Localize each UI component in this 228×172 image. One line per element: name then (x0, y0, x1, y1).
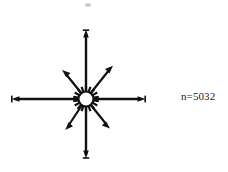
ray-south-tip-cap (83, 157, 89, 159)
scan-speck (85, 3, 91, 7)
ray-southwest-arrowhead (65, 122, 73, 130)
center-hub-disc (79, 92, 94, 107)
ray-west-tip-cap (11, 96, 13, 103)
ray-east-arrowhead (138, 96, 146, 102)
ray-north-tip-cap (83, 29, 89, 31)
rose-diagram (0, 0, 228, 172)
ray-west-arrowhead (12, 96, 20, 102)
figure-root: n=5032 (0, 0, 228, 172)
sample-size-label: n=5032 (181, 90, 215, 103)
ray-east-tip-cap (144, 96, 146, 103)
ray-southeast-arrowhead (102, 121, 110, 128)
ray-northwest-arrowhead (62, 70, 70, 77)
